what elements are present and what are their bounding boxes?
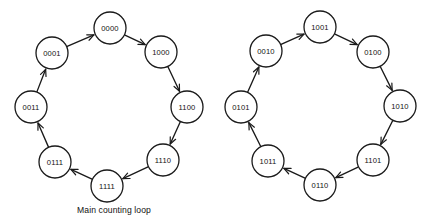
- state-node-0100[interactable]: 0100: [357, 36, 389, 68]
- transition-edge-0100-to-1010: [380, 67, 392, 91]
- state-node-0110[interactable]: 0110: [304, 169, 336, 201]
- state-node-1111[interactable]: 1111: [91, 170, 123, 202]
- transition-edge-1101-to-0110: [336, 167, 358, 177]
- edge-line: [249, 123, 261, 147]
- transition-edge-1010-to-1101: [381, 121, 393, 145]
- node-label: 0100: [364, 48, 382, 57]
- transition-edge-1111-to-0111: [71, 169, 92, 179]
- node-label: 0011: [23, 103, 40, 112]
- node-label: 1001: [311, 23, 329, 32]
- state-node-1100[interactable]: 1100: [171, 91, 203, 123]
- state-node-1011[interactable]: 1011: [252, 145, 284, 177]
- transition-edge-1011-to-0101: [249, 123, 261, 147]
- edge-line: [123, 167, 148, 179]
- node-label: 1110: [155, 156, 171, 165]
- edge-line: [170, 122, 180, 144]
- state-node-0010[interactable]: 0010: [250, 35, 282, 67]
- node-label: 0001: [43, 49, 61, 58]
- edge-line: [248, 67, 259, 92]
- edge-line: [71, 169, 92, 179]
- state-node-0011[interactable]: 0011: [15, 91, 47, 123]
- edge-line: [38, 123, 48, 147]
- transition-edge-0101-to-0010: [248, 67, 259, 92]
- edge-line: [125, 35, 145, 45]
- state-node-1000[interactable]: 1000: [145, 36, 177, 68]
- transition-edge-0000-to-1000: [125, 35, 145, 45]
- node-label: 1010: [391, 102, 409, 111]
- node-label: 0101: [232, 103, 250, 112]
- transition-edge-1001-to-0100: [335, 34, 357, 44]
- diagram-canvas: 0000100011001110111101110011000110010100…: [0, 0, 431, 222]
- transition-edge-0111-to-0011: [38, 123, 48, 147]
- node-label: 1011: [260, 157, 277, 166]
- transition-edge-0110-to-1011: [284, 168, 305, 178]
- edge-line: [336, 167, 358, 177]
- state-node-1101[interactable]: 1101: [357, 144, 389, 176]
- edges-layer: [37, 34, 393, 179]
- edge-line: [67, 35, 94, 47]
- edge-line: [168, 67, 179, 91]
- edge-line: [37, 69, 46, 91]
- edge-line: [281, 34, 304, 44]
- transition-edge-0010-to-1001: [281, 34, 304, 44]
- edge-line: [284, 168, 305, 178]
- node-label: 1100: [179, 103, 196, 112]
- state-node-1001[interactable]: 1001: [304, 11, 336, 43]
- edge-line: [335, 34, 357, 44]
- state-node-0111[interactable]: 0111: [39, 146, 71, 178]
- transition-edge-1000-to-1100: [168, 67, 179, 91]
- node-label: 0111: [47, 158, 63, 167]
- captions-layer: Main counting loop: [77, 205, 151, 215]
- transition-edge-0011-to-0001: [37, 69, 46, 91]
- state-node-1110[interactable]: 1110: [147, 144, 179, 176]
- state-node-0000[interactable]: 0000: [94, 12, 126, 44]
- state-node-1010[interactable]: 1010: [384, 90, 416, 122]
- node-label: 0010: [257, 47, 275, 56]
- node-label: 1111: [99, 182, 115, 191]
- node-label: 0110: [312, 181, 329, 190]
- state-node-0001[interactable]: 0001: [36, 37, 68, 69]
- state-node-0101[interactable]: 0101: [225, 91, 257, 123]
- node-label: 1101: [365, 156, 382, 165]
- transition-edge-0001-to-0000: [67, 35, 94, 47]
- edge-line: [380, 67, 392, 91]
- node-label: 0000: [101, 24, 119, 33]
- transition-edge-1110-to-1111: [123, 167, 148, 179]
- diagram-caption: Main counting loop: [77, 205, 151, 215]
- edge-line: [381, 121, 393, 145]
- node-label: 1000: [152, 48, 170, 57]
- transition-edge-1100-to-1110: [170, 122, 180, 144]
- state-transition-diagram: 0000100011001110111101110011000110010100…: [0, 0, 431, 222]
